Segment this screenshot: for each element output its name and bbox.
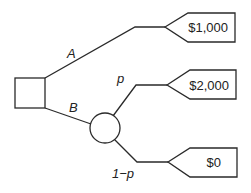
payoff-p-value: $2,000 [189, 78, 229, 93]
branch-p-label: p [116, 71, 124, 86]
payoff-box-1-minus-p [168, 148, 237, 177]
payoff-1-minus-p-value: $0 [207, 155, 221, 170]
branch-1-minus-p-line [114, 139, 168, 162]
branch-1-minus-p-label: 1−p [112, 166, 134, 181]
branch-b-label: B [69, 100, 78, 115]
decision-tree-diagram: A B p 1−p $1,000 $2,000 $0 [0, 0, 251, 193]
branch-a-label: A [66, 46, 76, 61]
payoff-a-value: $1,000 [188, 20, 228, 35]
chance-node-circle [90, 113, 120, 143]
branch-a-line [45, 27, 165, 78]
decision-node-square [15, 78, 45, 108]
branch-p-line [113, 85, 167, 116]
branch-b-line [45, 108, 91, 124]
